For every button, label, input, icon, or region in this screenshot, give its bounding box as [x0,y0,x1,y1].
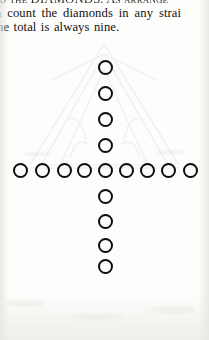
diamond-row-5 [98,163,113,178]
text-line-2: n count the diamonds in any strai [0,6,181,21]
diamond-column-7 [98,214,113,229]
paper-smudge [150,306,196,314]
diamond-row-4 [77,163,92,178]
diamond-column-4 [98,138,113,153]
diamond-column-3 [98,112,113,127]
diamond-column-8 [98,238,113,253]
paper-smudge [70,314,125,320]
paper-vignette [0,0,209,340]
diamond-row-3 [57,163,72,178]
diamond-column-1 [98,60,113,75]
diamond-row-7 [140,163,155,178]
paper-smudge [155,150,185,154]
scanned-page: ed the DIAMONDS. As arrange n count the … [0,0,209,340]
nine-diamonds-figure [0,0,209,340]
page-edge-shadow-left [0,0,9,340]
paper-smudge [24,152,52,156]
page-edge-shadow-right [198,0,209,340]
paper-smudge [6,300,46,307]
diamond-row-6 [119,163,134,178]
text-line-1: ed the DIAMONDS. As arrange [0,0,209,4]
ghost-showthrough-artwork [0,40,209,200]
diamond-column-9 [98,259,113,274]
page-edge-shadow-bottom [0,294,209,340]
diamond-row-2 [35,163,50,178]
diamond-row-1 [13,163,28,178]
text-line-3: he total is always nine. [0,20,119,35]
diamond-row-9 [183,163,198,178]
diamond-column-6 [98,189,113,204]
diamond-column-2 [98,86,113,101]
diamond-row-8 [161,163,176,178]
